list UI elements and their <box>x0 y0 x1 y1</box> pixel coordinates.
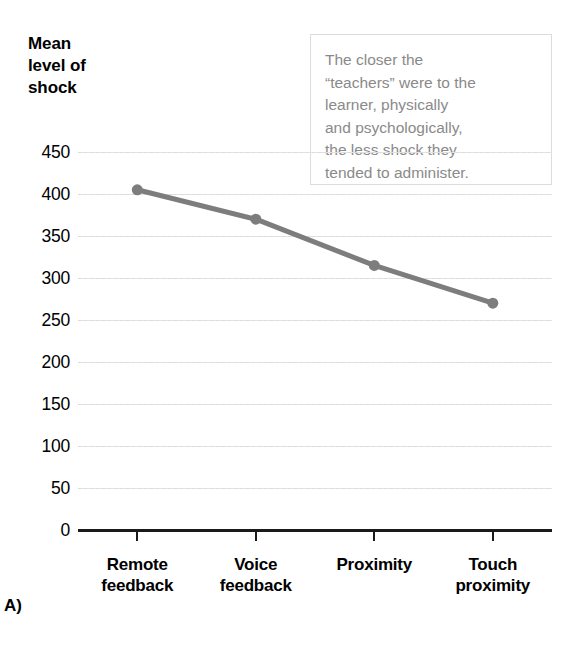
gridline <box>78 278 552 279</box>
y-axis-tick-label: 400 <box>24 184 70 205</box>
y-axis-tick-label: 0 <box>24 520 70 541</box>
x-axis-label: Touchproximity <box>418 554 568 596</box>
y-axis-tick-label: 250 <box>24 310 70 331</box>
panel-letter: A) <box>4 596 22 616</box>
y-axis-tick-label: 350 <box>24 226 70 247</box>
y-axis-title-line-2: level of <box>28 55 158 77</box>
x-axis-tick <box>373 532 375 541</box>
annotation-line-2: “teachers” were to the <box>325 72 539 95</box>
gridline <box>78 320 552 321</box>
annotation-line-1: The closer the <box>325 49 539 72</box>
x-axis-label-line: Touch <box>418 554 568 575</box>
y-axis-tick-label: 450 <box>24 142 70 163</box>
y-axis-tick-label: 300 <box>24 268 70 289</box>
figure-panel-a: Mean level of shock The closer the “teac… <box>0 0 579 650</box>
y-axis-title-line-1: Mean <box>28 33 158 55</box>
gridline <box>78 488 552 489</box>
x-axis-label-line: proximity <box>418 575 568 596</box>
gridline <box>78 236 552 237</box>
annotation-line-4: and psychologically, <box>325 117 539 140</box>
y-axis-tick-label: 200 <box>24 352 70 373</box>
y-axis-tick-label: 50 <box>24 478 70 499</box>
gridline <box>78 362 552 363</box>
x-axis-tick <box>136 532 138 541</box>
x-axis-line <box>78 529 552 532</box>
y-axis-tick-label: 150 <box>24 394 70 415</box>
gridline <box>78 404 552 405</box>
gridline <box>78 446 552 447</box>
y-axis-title: Mean level of shock <box>28 33 158 99</box>
y-axis-tick-label: 100 <box>24 436 70 457</box>
gridline <box>78 194 552 195</box>
y-axis-title-line-3: shock <box>28 77 158 99</box>
y-axis-tick-labels: 450400350300250200150100500 <box>20 152 70 530</box>
plot-area <box>78 152 552 530</box>
annotation-line-3: learner, physically <box>325 94 539 117</box>
x-axis-tick <box>492 532 494 541</box>
x-axis-label-line: feedback <box>181 575 331 596</box>
x-axis-tick <box>255 532 257 541</box>
gridline <box>78 152 552 153</box>
